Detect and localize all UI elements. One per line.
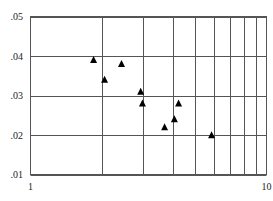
grid-lines <box>31 17 267 176</box>
triangle-marker-icon <box>118 60 125 67</box>
x-tick-label: 1 <box>28 181 33 192</box>
data-points <box>90 56 215 138</box>
y-tick-label: .03 <box>11 90 24 101</box>
x-tick-label: 10 <box>262 181 272 192</box>
plot-frame <box>31 17 267 175</box>
triangle-marker-icon <box>175 100 182 107</box>
triangle-marker-icon <box>161 123 168 130</box>
triangle-marker-icon <box>171 115 178 122</box>
x-axis-labels: 110 <box>28 181 272 192</box>
triangle-marker-icon <box>139 100 146 107</box>
y-axis-labels: .05.04.03.02.01 <box>11 11 24 180</box>
y-tick-label: .01 <box>11 169 24 180</box>
y-tick-label: .04 <box>11 51 24 62</box>
y-tick-label: .02 <box>11 130 24 141</box>
scatter-chart: .05.04.03.02.01 110 <box>0 0 273 201</box>
y-tick-label: .05 <box>11 11 24 22</box>
triangle-marker-icon <box>208 131 215 138</box>
triangle-marker-icon <box>90 56 97 63</box>
